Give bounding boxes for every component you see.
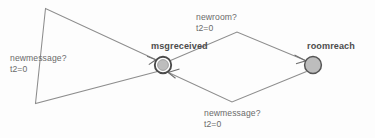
edge-label-roomreach-to-msgreceived: newmessage?t2=0 <box>204 108 261 129</box>
edge-roomreach-to-msgreceived <box>169 72 307 103</box>
edge-label-msgreceived-to-roomreach: newroom?t2=0 <box>196 12 237 33</box>
edge-label-guard: newroom? <box>196 12 237 22</box>
edge-label-action: t2=0 <box>10 64 27 74</box>
node-msgreceived-inner-fill <box>158 60 169 71</box>
node-roomreach[interactable] <box>305 57 322 74</box>
edge-label-action: t2=0 <box>196 23 213 33</box>
state-machine-diagram: newmessage?t2=0 newroom?t2=0 newmessage?… <box>0 0 375 138</box>
edge-label-guard: newmessage? <box>10 53 67 63</box>
node-label-msgreceived: msgreceived <box>151 41 208 51</box>
edge-label-guard: newmessage? <box>204 108 261 118</box>
edge-label-self-loop-msgreceived: newmessage?t2=0 <box>10 53 67 74</box>
node-label-roomreach: roomreach <box>307 41 355 51</box>
edge-label-action: t2=0 <box>204 119 221 129</box>
arrowhead-into-roomreach <box>295 55 306 64</box>
